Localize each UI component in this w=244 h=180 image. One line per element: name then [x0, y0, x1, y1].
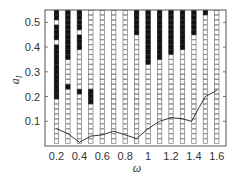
open-square-marker: [123, 114, 127, 118]
open-square-marker: [134, 60, 138, 64]
open-square-marker: [89, 109, 93, 113]
open-square-marker: [134, 35, 138, 39]
open-square-marker: [169, 129, 173, 133]
filled-square-marker: [54, 75, 58, 79]
open-square-marker: [169, 65, 173, 69]
open-square-marker: [66, 99, 70, 103]
open-square-marker: [203, 70, 207, 74]
open-square-marker: [134, 50, 138, 54]
filled-square-marker: [66, 85, 70, 89]
open-square-marker: [123, 20, 127, 24]
x-tick-label: 0.2: [49, 150, 64, 162]
filled-square-marker: [54, 45, 58, 49]
open-square-marker: [112, 99, 116, 103]
open-square-marker: [112, 55, 116, 59]
open-square-marker: [180, 89, 184, 93]
open-square-marker: [89, 60, 93, 64]
open-square-marker: [203, 30, 207, 34]
open-square-marker: [180, 94, 184, 98]
filled-square-marker: [66, 15, 70, 19]
filled-square-marker: [66, 50, 70, 54]
open-square-marker: [112, 85, 116, 89]
open-square-marker: [100, 10, 104, 14]
filled-square-marker: [89, 99, 93, 103]
open-square-marker: [146, 75, 150, 79]
open-square-marker: [100, 30, 104, 34]
open-square-marker: [215, 124, 219, 128]
open-square-marker: [89, 80, 93, 84]
open-square-marker: [146, 94, 150, 98]
open-square-marker: [100, 45, 104, 49]
filled-square-marker: [54, 10, 58, 14]
filled-square-marker: [89, 94, 93, 98]
filled-square-marker: [54, 65, 58, 69]
filled-square-marker: [54, 55, 58, 59]
filled-square-marker: [66, 10, 70, 14]
open-square-marker: [100, 80, 104, 84]
open-square-marker: [180, 139, 184, 143]
filled-square-marker: [180, 35, 184, 39]
open-square-marker: [169, 134, 173, 138]
open-square-marker: [215, 104, 219, 108]
open-square-marker: [192, 85, 196, 89]
open-square-marker: [123, 139, 127, 143]
open-square-marker: [169, 89, 173, 93]
open-square-marker: [157, 80, 161, 84]
open-square-marker: [157, 65, 161, 69]
y-tick-label: 0.5: [25, 16, 40, 28]
y-tick-label: 0.3: [25, 66, 40, 78]
filled-square-marker: [77, 40, 81, 44]
open-square-marker: [123, 10, 127, 14]
open-square-marker: [123, 109, 127, 113]
filled-square-marker: [192, 20, 196, 24]
open-square-marker: [169, 70, 173, 74]
open-square-marker: [169, 94, 173, 98]
open-square-marker: [203, 75, 207, 79]
filled-square-marker: [77, 89, 81, 93]
filled-square-marker: [146, 30, 150, 34]
open-square-marker: [54, 134, 58, 138]
open-square-marker: [100, 70, 104, 74]
open-square-marker: [215, 15, 219, 19]
open-square-marker: [215, 129, 219, 133]
open-square-marker: [54, 124, 58, 128]
open-square-marker: [89, 50, 93, 54]
y-tick-label: 0.2: [25, 91, 40, 103]
open-square-marker: [112, 104, 116, 108]
open-square-marker: [203, 129, 207, 133]
open-square-marker: [123, 55, 127, 59]
open-square-marker: [192, 65, 196, 69]
filled-square-marker: [169, 45, 173, 49]
open-square-marker: [192, 104, 196, 108]
filled-square-marker: [77, 45, 81, 49]
open-square-marker: [192, 40, 196, 44]
open-square-marker: [100, 20, 104, 24]
filled-square-marker: [66, 20, 70, 24]
filled-square-marker: [54, 80, 58, 84]
open-square-marker: [192, 60, 196, 64]
open-square-marker: [66, 94, 70, 98]
open-square-marker: [180, 129, 184, 133]
open-square-marker: [77, 99, 81, 103]
open-square-marker: [169, 109, 173, 113]
open-square-marker: [203, 40, 207, 44]
filled-square-marker: [157, 25, 161, 29]
open-square-marker: [215, 134, 219, 138]
open-square-marker: [157, 124, 161, 128]
filled-square-marker: [77, 25, 81, 29]
filled-square-marker: [180, 30, 184, 34]
open-square-marker: [77, 30, 81, 34]
open-square-marker: [123, 60, 127, 64]
open-square-marker: [157, 94, 161, 98]
filled-square-marker: [54, 50, 58, 54]
open-square-marker: [123, 65, 127, 69]
open-square-marker: [180, 70, 184, 74]
open-square-marker: [192, 99, 196, 103]
filled-square-marker: [146, 55, 150, 59]
open-square-marker: [112, 119, 116, 123]
open-square-marker: [89, 65, 93, 69]
x-tick-label: 1: [145, 150, 151, 162]
filled-square-marker: [192, 30, 196, 34]
open-square-marker: [180, 55, 184, 59]
open-square-marker: [203, 20, 207, 24]
